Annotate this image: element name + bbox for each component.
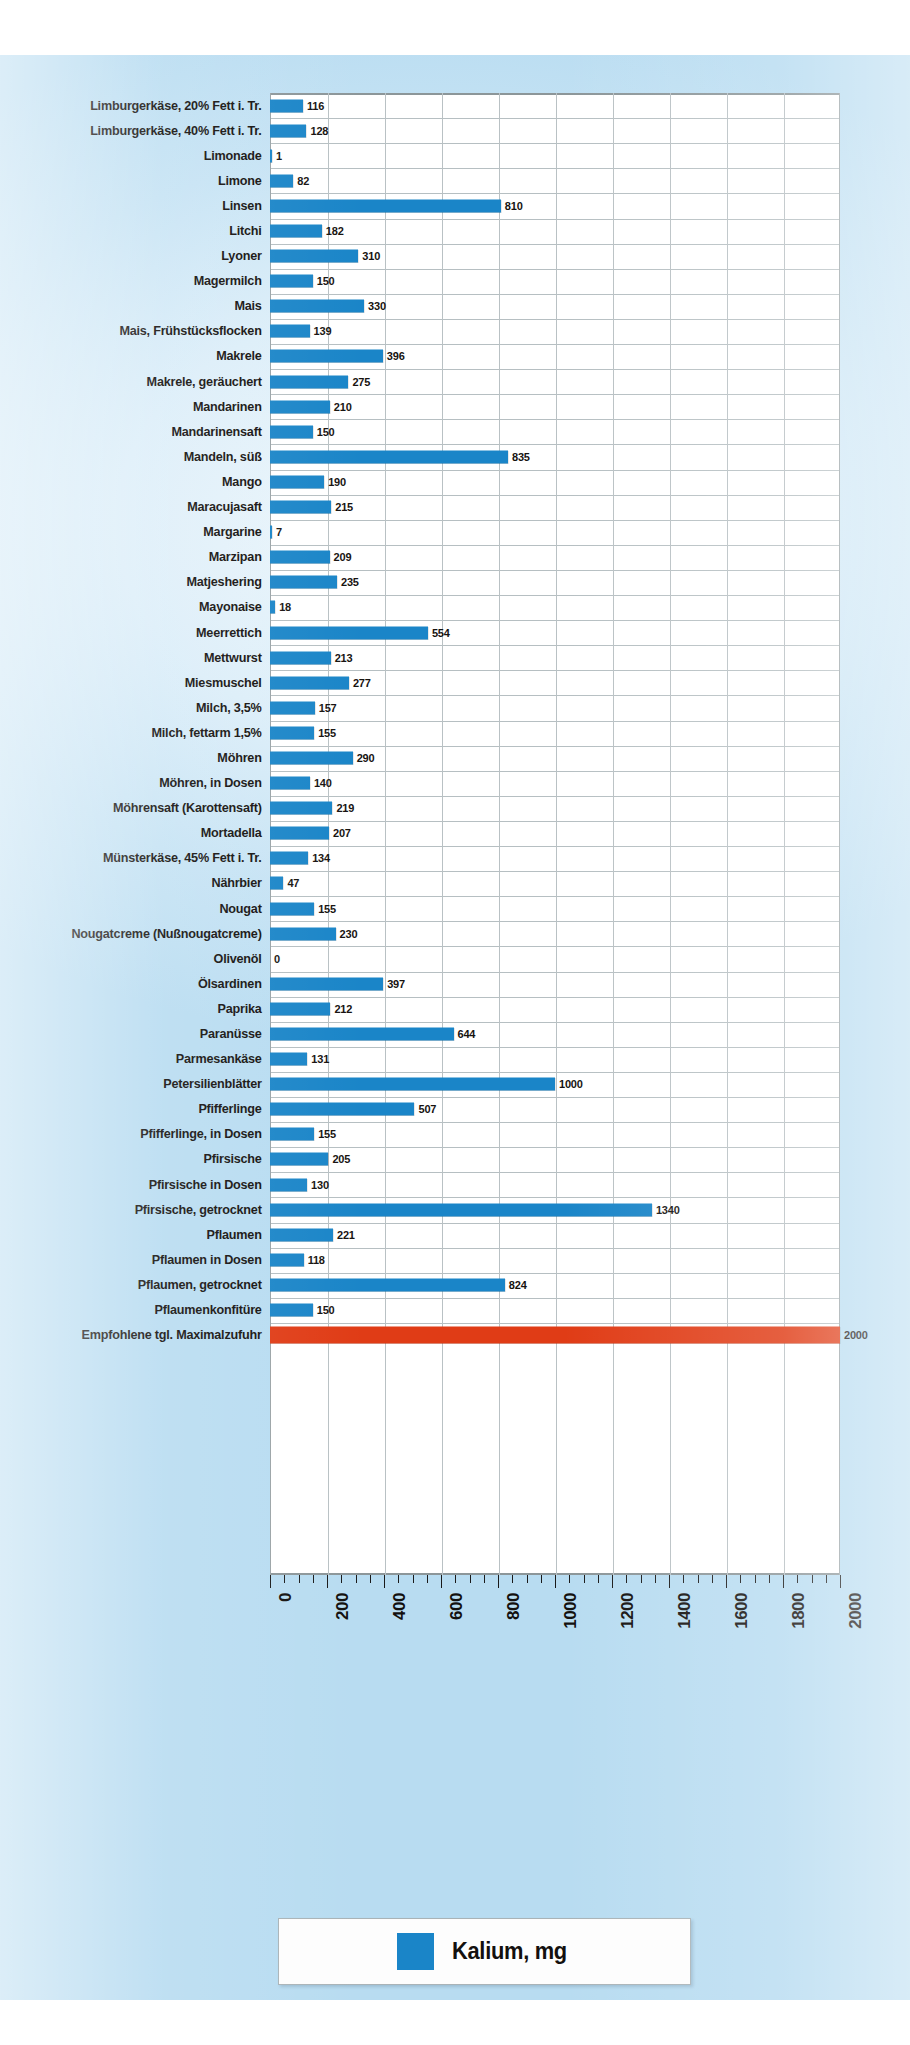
axis-tick-minor [584, 1575, 585, 1583]
axis-tick-minor [313, 1575, 314, 1583]
axis-tick-minor [598, 1575, 599, 1583]
bar-track: 1000 [270, 1072, 910, 1097]
bar-value-label: 130 [311, 1179, 329, 1191]
bar-row: Pflaumen221 [0, 1222, 910, 1247]
axis-tick-major [498, 1575, 499, 1588]
bar-value-label: 209 [334, 551, 352, 563]
bar-value-label: 221 [337, 1229, 355, 1241]
bar-row: Mandeln, süß835 [0, 444, 910, 469]
bar-category-label: Pflaumen in Dosen [19, 1253, 270, 1267]
axis-tick-minor [740, 1575, 741, 1583]
axis-tick-label: 1200 [618, 1593, 638, 1629]
bar [270, 149, 272, 162]
bar-track: 150 [270, 269, 910, 294]
bar [270, 501, 331, 514]
axis-tick-major [669, 1575, 670, 1588]
bar [270, 1304, 313, 1317]
bar [270, 199, 501, 212]
bar-row: Pflaumen, getrocknet824 [0, 1272, 910, 1297]
bar [270, 1178, 307, 1191]
bar [270, 1153, 328, 1166]
axis-tick-minor [541, 1575, 542, 1583]
bar-rows: Limburgerkäse, 20% Fett i. Tr.116Limburg… [0, 93, 910, 1348]
bar [270, 225, 322, 238]
bar-track: 275 [270, 369, 910, 394]
bar [270, 1278, 505, 1291]
bar [270, 450, 508, 463]
bar [270, 325, 310, 338]
bar [270, 576, 337, 589]
axis-tick-minor [470, 1575, 471, 1583]
bar-value-label: 219 [336, 802, 354, 814]
axis-tick-major [840, 1575, 841, 1588]
bar-value-label: 644 [458, 1028, 476, 1040]
bar-track: 1 [270, 143, 910, 168]
bar-track: 644 [270, 1021, 910, 1046]
bar-row: Pflaumenkonfitüre150 [0, 1298, 910, 1323]
bar [270, 626, 428, 639]
bar-value-label: 330 [368, 300, 386, 312]
bar-row: Petersilienblätter1000 [0, 1072, 910, 1097]
axis-tick-minor [356, 1575, 357, 1583]
axis-tick-minor [455, 1575, 456, 1583]
bar-category-label: Limburgerkäse, 20% Fett i. Tr. [19, 99, 270, 113]
bar-row: Mais, Frühstücksflocken139 [0, 319, 910, 344]
bar [270, 1078, 555, 1091]
bar-value-label: 134 [312, 852, 330, 864]
axis-tick-minor [370, 1575, 371, 1583]
bar-track: 155 [270, 1122, 910, 1147]
bar-track: 0 [270, 946, 910, 971]
bar-row: Parmesankäse131 [0, 1047, 910, 1072]
bar [270, 300, 364, 313]
axis-tick-label: 1800 [789, 1593, 809, 1629]
poster-panel: Limburgerkäse, 20% Fett i. Tr.116Limburg… [0, 55, 910, 2000]
axis-tick-minor [769, 1575, 770, 1583]
bar [270, 1128, 314, 1141]
bar-value-label: 213 [335, 652, 353, 664]
bar-value-label: 190 [328, 476, 346, 488]
bar-track: 310 [270, 244, 910, 269]
legend-swatch-kalium [397, 1933, 434, 1970]
bar [270, 250, 358, 263]
bar-value-label: 7 [276, 526, 282, 538]
bar-track: 507 [270, 1097, 910, 1122]
axis-tick-major [612, 1575, 613, 1588]
axis-tick-minor [512, 1575, 513, 1583]
bar-value-label: 1 [276, 150, 282, 162]
bar-value-label: 47 [287, 877, 299, 889]
bar-category-label: Pflaumenkonfitüre [19, 1303, 270, 1317]
bar [270, 777, 310, 790]
bar-category-label: Paranüsse [19, 1027, 270, 1041]
legend-label-kalium: Kalium, mg [452, 1938, 567, 1965]
bar-category-label: Mortadella [19, 826, 270, 840]
bar [270, 676, 349, 689]
axis-tick-major [384, 1575, 385, 1588]
bar-track: 190 [270, 469, 910, 494]
bar-row: Paprika212 [0, 996, 910, 1021]
axis-tick-minor [413, 1575, 414, 1583]
bar-row: Olivenöl0 [0, 946, 910, 971]
axis-tick-label: 600 [447, 1593, 467, 1620]
bar [270, 1103, 414, 1116]
bar-row: Empfohlene tgl. Maximalzufuhr2000 [0, 1323, 910, 1348]
bar [270, 375, 348, 388]
bar-category-label: Mais [19, 299, 270, 313]
bar-category-label: Makrele [19, 349, 270, 363]
axis-tick-minor [626, 1575, 627, 1583]
bar-track: 150 [270, 1298, 910, 1323]
bar-category-label: Olivenöl [19, 952, 270, 966]
bar-category-label: Möhrensaft (Karottensaft) [19, 801, 270, 815]
bar-value-label: 131 [311, 1053, 329, 1065]
bar-value-label: 140 [314, 777, 332, 789]
bar-track: 221 [270, 1222, 910, 1247]
bar-category-label: Pfifferlinge [19, 1102, 270, 1116]
bar-row: Limone82 [0, 168, 910, 193]
bar-value-label: 810 [505, 200, 523, 212]
bar [270, 751, 353, 764]
axis-tick-minor [641, 1575, 642, 1583]
axis-tick-label: 1400 [675, 1593, 695, 1629]
bar-track: 209 [270, 545, 910, 570]
bar [270, 977, 383, 990]
bar [270, 400, 330, 413]
bar-row: Pfirsische in Dosen130 [0, 1172, 910, 1197]
